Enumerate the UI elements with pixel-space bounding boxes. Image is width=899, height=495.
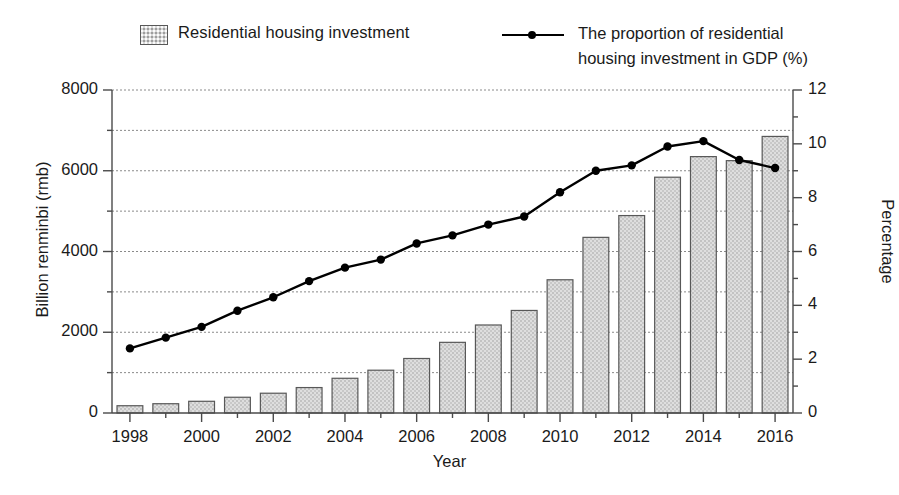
y-left-tick-6000: 6000 — [61, 160, 98, 179]
x-tick-2000: 2000 — [162, 427, 242, 446]
x-tick-2010: 2010 — [520, 427, 600, 446]
y-left-tick-8000: 8000 — [61, 79, 98, 98]
x-tick-2004: 2004 — [305, 427, 385, 446]
bar-2015 — [726, 161, 752, 413]
line-point-2002 — [269, 293, 277, 301]
bar-2004 — [332, 378, 358, 413]
line-point-2016 — [771, 164, 779, 172]
bar-1999 — [153, 404, 179, 413]
bar-2007 — [440, 342, 466, 413]
line-point-2007 — [448, 231, 456, 239]
x-tick-2016: 2016 — [735, 427, 815, 446]
line-point-1998 — [126, 344, 134, 352]
bar-2005 — [368, 370, 394, 413]
bar-2001 — [225, 397, 251, 413]
bar-2009 — [511, 310, 537, 413]
bar-2014 — [690, 157, 716, 413]
y-right-tick-12: 12 — [808, 79, 826, 98]
bar-2003 — [296, 388, 322, 413]
line-point-2015 — [735, 156, 743, 164]
y-right-tick-0: 0 — [808, 402, 817, 421]
bar-2016 — [762, 136, 788, 413]
line-point-2014 — [699, 137, 707, 145]
bar-2011 — [583, 237, 609, 413]
line-point-2013 — [663, 142, 671, 150]
chart-plot-area — [0, 0, 899, 495]
line-point-2012 — [628, 161, 636, 169]
bar-2002 — [260, 393, 286, 413]
y-right-tick-10: 10 — [808, 133, 826, 152]
x-tick-2012: 2012 — [592, 427, 672, 446]
line-point-2010 — [556, 188, 564, 196]
line-point-2000 — [197, 323, 205, 331]
line-point-2006 — [412, 239, 420, 247]
line-point-2009 — [520, 212, 528, 220]
bar-2010 — [547, 280, 573, 413]
x-tick-1998: 1998 — [90, 427, 170, 446]
line-point-2004 — [341, 263, 349, 271]
x-tick-2006: 2006 — [377, 427, 457, 446]
line-point-2008 — [484, 220, 492, 228]
line-series — [126, 137, 780, 353]
y-left-tick-0: 0 — [89, 402, 98, 421]
y-right-tick-4: 4 — [808, 294, 817, 313]
y-left-tick-2000: 2000 — [61, 321, 98, 340]
line-point-1999 — [162, 333, 170, 341]
bar-2006 — [404, 358, 430, 413]
bar-1998 — [117, 406, 143, 413]
bar-2013 — [655, 177, 681, 413]
y-right-tick-6: 6 — [808, 241, 817, 260]
y-right-tick-2: 2 — [808, 348, 817, 367]
y-left-tick-4000: 4000 — [61, 241, 98, 260]
line-point-2001 — [233, 307, 241, 315]
x-tick-2002: 2002 — [233, 427, 313, 446]
x-tick-2014: 2014 — [663, 427, 743, 446]
line-point-2011 — [592, 167, 600, 175]
bar-series — [117, 136, 788, 413]
bar-2012 — [619, 216, 645, 413]
bar-2000 — [189, 401, 215, 413]
line-point-2003 — [305, 277, 313, 285]
line-point-2005 — [377, 255, 385, 263]
x-tick-2008: 2008 — [448, 427, 528, 446]
bar-2008 — [475, 325, 501, 413]
y-right-tick-8: 8 — [808, 187, 817, 206]
